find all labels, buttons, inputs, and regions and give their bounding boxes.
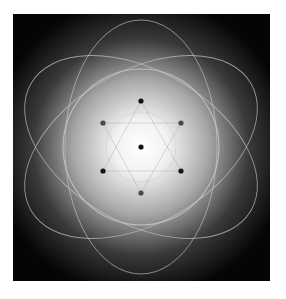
diagram-canvas: [13, 14, 270, 281]
node-dot: [100, 120, 105, 125]
node-dot: [178, 120, 183, 125]
diagram-panel: [13, 14, 270, 281]
node-dot: [138, 98, 143, 103]
node-dot: [138, 190, 143, 195]
center-dot: [138, 144, 143, 149]
node-dot: [178, 168, 183, 173]
node-dot: [100, 168, 105, 173]
